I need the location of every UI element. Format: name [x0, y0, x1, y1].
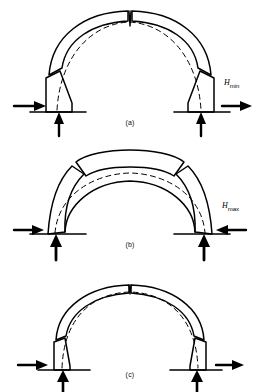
caption-panel-c: (c) — [0, 371, 260, 378]
force-label-h-min: Hmin — [224, 78, 239, 89]
caption-panel-b: (b) — [0, 241, 260, 248]
reaction-arrow-right-horizontal — [222, 101, 252, 111]
force-label-h-max: Hmax — [222, 201, 239, 212]
reaction-arrow-right-horizontal — [216, 360, 244, 370]
caption-panel-a: (a) — [0, 119, 260, 126]
arch-intrados-curve — [65, 181, 195, 232]
force-subscript-min: min — [230, 83, 240, 89]
arch-mechanism-figure: Hmin Hmax (a) (b) (c) — [0, 0, 260, 392]
thrust-line — [62, 292, 198, 368]
reaction-arrow-left-horizontal — [18, 360, 48, 370]
crown-hinge-notch — [129, 285, 131, 294]
arch-voussoir-crown-block — [76, 150, 184, 176]
force-subscript-max: max — [228, 206, 239, 212]
arch-voussoir-left-main — [49, 11, 128, 75]
reaction-arrow-left-horizontal — [14, 101, 46, 111]
crown-hinge-notch — [129, 11, 131, 26]
thrust-line — [57, 22, 201, 110]
arch-voussoir-right-main — [132, 11, 211, 75]
